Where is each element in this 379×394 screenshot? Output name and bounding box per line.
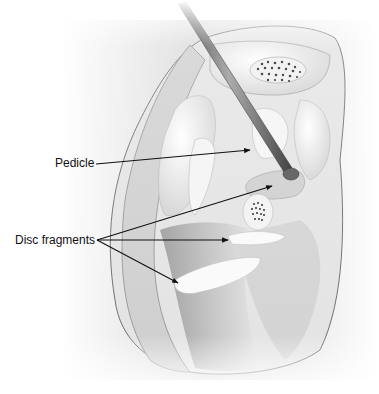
anatomical-illustration: Pedicle Disc fragments	[0, 0, 379, 394]
spine-illustration	[0, 0, 379, 394]
label-disc-fragments: Disc fragments	[15, 233, 95, 247]
label-pedicle: Pedicle	[55, 156, 94, 170]
vertical-fade	[0, 0, 379, 394]
